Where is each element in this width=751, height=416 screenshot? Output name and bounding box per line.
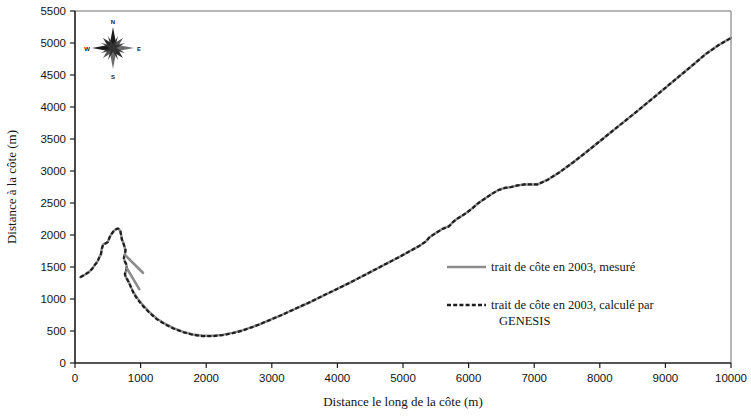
legend-label-genesis-line2: GENESIS xyxy=(499,314,550,328)
y-tick-label: 4000 xyxy=(40,101,66,113)
spur-segments xyxy=(125,255,143,289)
y-tick-label: 4500 xyxy=(40,69,66,81)
legend-label-measured: trait de côte en 2003, mesuré xyxy=(491,260,636,274)
x-tick-label: 10000 xyxy=(715,372,747,384)
y-tick-label: 3500 xyxy=(40,133,66,145)
legend-label-genesis: trait de côte en 2003, calculé par xyxy=(491,298,655,312)
series-line-genesis xyxy=(80,38,731,336)
x-tick-label: 7000 xyxy=(521,372,547,384)
chart-svg: 0500100015002000250030003500400045005000… xyxy=(0,0,751,416)
spur-lower xyxy=(127,268,139,289)
y-tick-label: 2000 xyxy=(40,229,66,241)
y-axis-tick-labels: 0500100015002000250030003500400045005000… xyxy=(40,5,66,369)
chart-legend: trait de côte en 2003, mesuré trait de c… xyxy=(447,260,655,328)
y-axis-title: Distance à la côte (m) xyxy=(4,130,19,244)
series-line-measured xyxy=(80,38,731,336)
x-tick-label: 0 xyxy=(72,372,78,384)
y-tick-label: 500 xyxy=(47,325,66,337)
y-axis: 0500100015002000250030003500400045005000… xyxy=(40,5,75,369)
y-tick-label: 0 xyxy=(60,357,66,369)
compass-rose: N S W E xyxy=(84,19,141,80)
x-tick-label: 6000 xyxy=(456,372,482,384)
y-tick-label: 1000 xyxy=(40,293,66,305)
compass-south-label: S xyxy=(111,74,115,80)
compass-east-label: E xyxy=(137,46,141,52)
x-tick-label: 4000 xyxy=(325,372,351,384)
x-tick-label: 3000 xyxy=(259,372,285,384)
x-tick-label: 1000 xyxy=(128,372,154,384)
x-axis: 0100020003000400050006000700080009000100… xyxy=(72,363,747,384)
x-tick-label: 8000 xyxy=(587,372,613,384)
chart-figure: 0500100015002000250030003500400045005000… xyxy=(0,0,751,416)
y-tick-label: 5500 xyxy=(40,5,66,17)
y-tick-label: 3000 xyxy=(40,165,66,177)
x-axis-title: Distance le long de la côte (m) xyxy=(323,394,483,409)
y-tick-label: 1500 xyxy=(40,261,66,273)
y-tick-label: 5000 xyxy=(40,37,66,49)
x-tick-label: 5000 xyxy=(390,372,416,384)
compass-north-label: N xyxy=(111,19,115,25)
x-axis-tick-labels: 0100020003000400050006000700080009000100… xyxy=(72,372,747,384)
y-tick-label: 2500 xyxy=(40,197,66,209)
data-series-group xyxy=(80,38,731,336)
compass-star-icon xyxy=(92,27,134,69)
compass-west-label: W xyxy=(84,46,90,52)
x-tick-label: 9000 xyxy=(653,372,679,384)
x-tick-label: 2000 xyxy=(193,372,219,384)
